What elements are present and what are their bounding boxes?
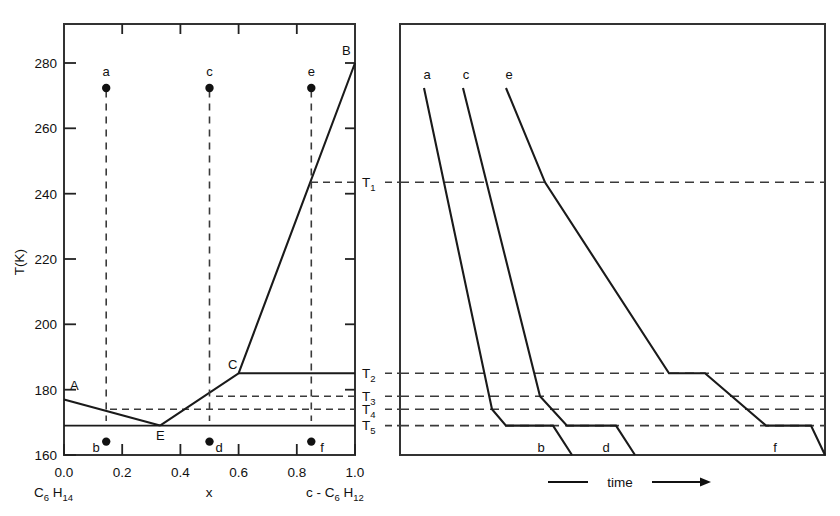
x-axis-title: x xyxy=(206,485,213,500)
y-tick-220: 220 xyxy=(34,252,57,267)
curve-end-label-d: d xyxy=(602,440,609,455)
curve-end-label-f: f xyxy=(773,440,777,455)
marker-c xyxy=(205,84,213,92)
marker-f xyxy=(307,437,315,445)
marker-label-c: c xyxy=(206,64,213,79)
marker-e xyxy=(307,84,315,92)
x-tick-0.0: 0.0 xyxy=(55,465,74,480)
y-axis-title: T(K) xyxy=(12,249,27,275)
x-tick-0.2: 0.2 xyxy=(113,465,132,480)
x-tick-1.0: 1.0 xyxy=(346,465,365,480)
y-tick-180: 180 xyxy=(34,383,57,398)
y-tick-240: 240 xyxy=(34,187,57,202)
curve-start-label-e: e xyxy=(505,67,512,82)
point-label-B: B xyxy=(342,43,351,58)
x-tick-0.8: 0.8 xyxy=(287,465,306,480)
marker-d xyxy=(205,437,213,445)
point-label-C: C xyxy=(228,357,237,372)
y-tick-260: 260 xyxy=(34,121,57,136)
curve-end-label-b: b xyxy=(537,440,544,455)
figure-container: 160 180 200 220 240 260 280 T(K) xyxy=(0,0,840,516)
y-tick-200: 200 xyxy=(34,317,57,332)
curve-start-label-a: a xyxy=(423,67,431,82)
figure-background xyxy=(0,0,840,516)
y-tick-280: 280 xyxy=(34,56,57,71)
marker-label-f: f xyxy=(320,440,324,455)
x-tick-0.4: 0.4 xyxy=(171,465,190,480)
y-tick-160: 160 xyxy=(34,448,57,463)
time-axis-label: time xyxy=(607,475,633,490)
marker-label-e: e xyxy=(308,64,315,79)
point-label-A: A xyxy=(70,378,79,393)
marker-label-b: b xyxy=(92,440,99,455)
marker-label-d: d xyxy=(215,440,222,455)
marker-label-a: a xyxy=(103,64,111,79)
point-label-E: E xyxy=(156,428,165,443)
marker-b xyxy=(102,437,110,445)
x-tick-0.6: 0.6 xyxy=(229,465,248,480)
marker-a xyxy=(102,84,110,92)
figure-svg: 160 180 200 220 240 260 280 T(K) xyxy=(0,0,840,516)
curve-start-label-c: c xyxy=(463,67,470,82)
